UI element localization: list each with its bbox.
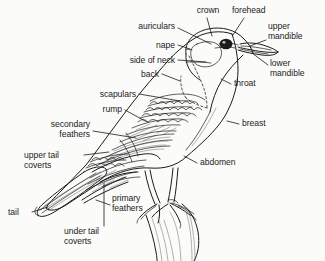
nape-and-neck-lines: [181, 49, 211, 108]
label-tail: tail: [8, 208, 34, 218]
label-back: back: [113, 70, 159, 80]
label-under-tail-coverts: under tailcoverts: [64, 227, 124, 246]
label-upper-tail-coverts: upper tailcoverts: [24, 151, 82, 170]
label-upper-mandible: uppermandible: [268, 22, 325, 41]
leader-upper-tail-coverts: [84, 152, 109, 155]
leader-secondary-feathers: [93, 131, 136, 138]
label-primary-feathers-line2: feathers: [112, 203, 143, 213]
label-secondary-feathers-line2: feathers: [59, 129, 90, 139]
label-under-tail-coverts-line1: under tail: [64, 226, 99, 236]
leader-back: [162, 74, 180, 81]
label-forehead: forehead: [232, 6, 288, 16]
label-secondary-feathers: secondaryfeathers: [16, 120, 90, 139]
bird-anatomy-diagram: .s { fill:none; stroke:#1b1b1b; stroke-w…: [0, 0, 325, 261]
label-upper-tail-coverts-line1: upper tail: [24, 150, 59, 160]
leader-abdomen: [184, 156, 197, 163]
leader-breast: [227, 121, 239, 124]
label-nape: nape: [126, 41, 175, 51]
label-under-tail-coverts-line2: coverts: [64, 236, 91, 246]
label-lower-mandible-line2: mandible: [270, 68, 304, 78]
label-crown: crown: [186, 6, 230, 16]
leader-primary-feathers: [96, 200, 110, 205]
label-primary-feathers-line1: primary: [112, 193, 140, 203]
label-abdomen: abdomen: [200, 158, 254, 168]
bill: [238, 43, 278, 55]
label-throat: throat: [234, 79, 274, 89]
label-rump: rump: [72, 105, 122, 115]
wing-coverts: [120, 119, 182, 142]
label-primary-feathers: primaryfeathers: [112, 194, 164, 213]
leader-rump: [125, 110, 147, 122]
label-secondary-feathers-line1: secondary: [51, 119, 90, 129]
label-scapulars: scapulars: [70, 90, 136, 100]
label-upper-mandible-line1: upper: [268, 21, 290, 31]
leader-tail: [32, 207, 48, 212]
label-side-of-neck: side of neck: [104, 56, 175, 66]
scapular-feathers: [138, 94, 205, 122]
leader-scapulars: [139, 94, 180, 101]
leader-forehead: [233, 18, 244, 35]
label-lower-mandible-line1: lower: [270, 58, 290, 68]
leader-throat: [221, 79, 231, 84]
leader-auriculars: [178, 28, 211, 44]
label-upper-tail-coverts-line2: coverts: [24, 160, 51, 170]
label-upper-mandible-line2: mandible: [268, 31, 302, 41]
label-lower-mandible: lowermandible: [270, 59, 325, 78]
label-breast: breast: [242, 119, 282, 129]
label-auriculars: auriculars: [118, 22, 175, 32]
